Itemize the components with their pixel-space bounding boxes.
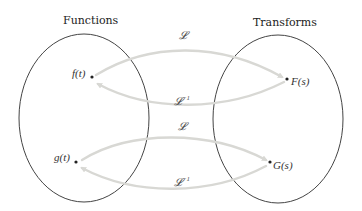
label-g-of-t: g(t)	[54, 151, 70, 164]
inverse-operator-superscript: −1	[182, 94, 190, 102]
forward-arrow-g-to-G	[82, 138, 266, 161]
functions-set-title: Functions	[63, 14, 119, 27]
label-G-of-s: G(s)	[273, 159, 293, 172]
transforms-set-title: Transforms	[253, 16, 317, 29]
inverse-operator-label-bottom: 𝓛−1	[174, 175, 190, 188]
forward-operator-label-top: 𝓛	[179, 29, 190, 41]
label-f-of-t: f(t)	[72, 67, 86, 80]
laplace-transform-diagram: Functions Transforms 𝓛 𝓛−1 𝓛 𝓛−1 f(t) F(…	[0, 0, 362, 211]
label-F-of-s: F(s)	[290, 75, 310, 88]
point-F	[285, 77, 288, 80]
point-f	[90, 75, 93, 78]
forward-operator-label-bottom: 𝓛	[178, 120, 189, 132]
point-G	[268, 160, 271, 163]
point-g	[74, 160, 77, 163]
inverse-arrow-F-to-f	[98, 82, 284, 105]
forward-arrow-f-to-F	[96, 50, 282, 77]
inverse-operator-superscript: −1	[182, 175, 190, 183]
transforms-set-ellipse	[213, 35, 343, 203]
